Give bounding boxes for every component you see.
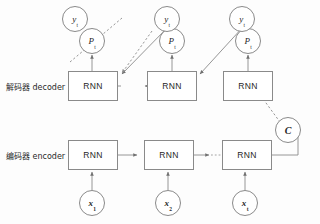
encoder-input-node-2[interactable]: x2 (155, 190, 181, 216)
context-vector-node[interactable]: C (275, 117, 301, 143)
decoder-row-label: 解码器 decoder (6, 81, 65, 92)
diagram-canvas: 解码器 decoder 编码器 encoder RNN RNN RNN RNN … (0, 0, 320, 224)
encoder-rnn-cell-2[interactable]: RNN (144, 140, 194, 170)
decoder-rnn-cell-2[interactable]: RNN (147, 71, 197, 101)
encoder-rnn-cell-3-label: RNN (237, 150, 256, 160)
context-vector-label: C (285, 125, 292, 136)
decoder-token-node-3-label: yt (239, 14, 245, 24)
decoder-prob-node-3[interactable]: Pt (235, 28, 261, 54)
encoder-rnn-cell-2-label: RNN (159, 150, 178, 160)
decoder-token-node-1[interactable]: yt (62, 6, 88, 32)
decoder-prob-node-2[interactable]: Pt (159, 28, 185, 54)
decoder-prob-node-3-label: Pt (244, 36, 251, 46)
decoder-rnn-cell-1-label: RNN (83, 81, 102, 91)
decoder-prob-node-2-label: Pt (168, 36, 175, 46)
decoder-token-node-2[interactable]: yt (154, 6, 180, 32)
encoder-input-node-2-label: x2 (164, 198, 171, 208)
decoder-prob-node-1-label: Pt (88, 36, 95, 46)
decoder-token-node-2-label: yt (164, 14, 170, 24)
encoder-rnn-cell-1[interactable]: RNN (68, 140, 118, 170)
decoder-rnn-cell-3-label: RNN (238, 81, 257, 91)
encoder-row-label: 编码器 encoder (6, 150, 65, 161)
encoder-input-node-1-label: x1 (88, 198, 95, 208)
encoder-rnn-cell-1-label: RNN (83, 150, 102, 160)
decoder-token-node-3[interactable]: yt (229, 6, 255, 32)
encoder-input-node-1[interactable]: x1 (79, 190, 105, 216)
decoder-token-node-1-label: yt (72, 14, 78, 24)
decoder-prob-node-1[interactable]: Pt (79, 28, 105, 54)
decoder-rnn-cell-3[interactable]: RNN (223, 71, 273, 101)
decoder-rnn-cell-1[interactable]: RNN (68, 71, 118, 101)
encoder-input-node-3-label: xt (242, 198, 248, 208)
decoder-rnn-cell-2-label: RNN (162, 81, 181, 91)
encoder-rnn-cell-3[interactable]: RNN (222, 140, 272, 170)
context-attention-wire-2 (122, 31, 152, 73)
encoder-input-node-3[interactable]: xt (232, 190, 258, 216)
